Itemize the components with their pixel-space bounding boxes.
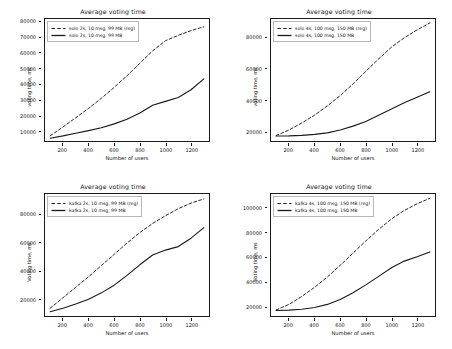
y-tick-label: 80000 <box>20 211 36 217</box>
x-tick-mark <box>314 143 315 146</box>
x-tick-label: 200 <box>283 147 293 153</box>
series-line <box>276 92 430 136</box>
x-tick-mark <box>392 318 393 321</box>
series-line <box>276 252 430 311</box>
legend-item[interactable]: solo 2s, 10 msg, 99 MB (reg) <box>51 25 135 32</box>
y-tick-label: 80000 <box>246 34 262 40</box>
y-axis-ticks: 20000400006000080000100000 <box>226 193 267 317</box>
y-tick-label: 80000 <box>246 230 262 236</box>
chart-title: Average voting time <box>226 8 452 16</box>
x-tick-mark <box>88 143 89 146</box>
y-tick-mark <box>39 68 42 69</box>
legend-item[interactable]: solo 4s, 100 msg, 150 MB (reg) <box>277 25 367 32</box>
legend-label: kafka 4s, 100 msg, 150 MB (reg) <box>295 200 370 207</box>
x-tick-label: 400 <box>83 147 93 153</box>
chart-legend[interactable]: kafka 2s, 10 msg, 99 MB (reg)kafka 2s, 1… <box>47 196 142 217</box>
x-tick-label: 1200 <box>411 147 424 153</box>
y-tick-mark <box>39 131 42 132</box>
legend-label: kafka 2s, 10 msg, 99 MB <box>69 207 126 214</box>
x-axis-label: Number of users <box>270 155 436 161</box>
y-tick-mark <box>265 282 268 283</box>
y-tick-mark <box>265 232 268 233</box>
x-tick-label: 600 <box>109 322 119 328</box>
chart-legend[interactable]: kafka 4s, 100 msg, 150 MB (reg)kafka 4s,… <box>273 196 374 217</box>
plot-area: kafka 4s, 100 msg, 150 MB (reg)kafka 4s,… <box>270 193 436 317</box>
y-tick-label: 60000 <box>246 254 262 260</box>
y-tick-mark <box>39 271 42 272</box>
chart-title: Average voting time <box>0 183 226 191</box>
x-tick-label: 400 <box>309 147 319 153</box>
chart-panel-bottom-right: Average voting time Voting time, ms 2000… <box>226 175 452 349</box>
x-tick-label: 400 <box>309 322 319 328</box>
legend-label: solo 2s, 10 msg, 99 MB (reg) <box>69 25 135 32</box>
x-tick-label: 1000 <box>160 147 173 153</box>
x-tick-mark <box>140 318 141 321</box>
x-axis-ticks: 20040060080010001200 <box>270 318 436 328</box>
legend-item[interactable]: kafka 4s, 100 msg, 150 MB (reg) <box>277 200 370 207</box>
x-tick-label: 1000 <box>386 322 399 328</box>
dashed-line-swatch-icon <box>51 201 66 206</box>
x-tick-mark <box>62 318 63 321</box>
x-tick-mark <box>366 143 367 146</box>
y-tick-label: 50000 <box>20 66 36 72</box>
dashed-line-swatch-icon <box>277 201 292 206</box>
figure-canvas: Average voting time voting time, ms 1000… <box>0 0 452 349</box>
legend-item[interactable]: solo 4s, 100 msg, 150 MB <box>277 32 367 39</box>
x-tick-label: 200 <box>57 322 67 328</box>
plot-area: solo 2s, 10 msg, 99 MB (reg)solo 2s, 10 … <box>44 18 210 142</box>
y-tick-mark <box>39 299 42 300</box>
x-tick-label: 600 <box>335 322 345 328</box>
y-tick-mark <box>265 132 268 133</box>
y-tick-label: 100000 <box>243 205 262 211</box>
chart-panel-top-left: Average voting time voting time, ms 1000… <box>0 0 226 174</box>
x-tick-label: 200 <box>283 322 293 328</box>
x-tick-label: 400 <box>83 322 93 328</box>
y-tick-mark <box>39 100 42 101</box>
x-tick-label: 1000 <box>160 322 173 328</box>
x-tick-label: 1000 <box>386 147 399 153</box>
x-tick-label: 800 <box>135 322 145 328</box>
x-tick-label: 600 <box>335 147 345 153</box>
x-tick-mark <box>314 318 315 321</box>
legend-item[interactable]: kafka 2s, 10 msg, 99 MB <box>51 207 138 214</box>
legend-item[interactable]: kafka 2s, 10 msg, 99 MB (reg) <box>51 200 138 207</box>
legend-label: solo 4s, 100 msg, 150 MB <box>295 32 354 39</box>
x-tick-mark <box>166 318 167 321</box>
dashed-line-swatch-icon <box>277 26 292 31</box>
chart-panel-bottom-left: Average voting time Voting time, ms 2000… <box>0 175 226 349</box>
y-tick-label: 60000 <box>20 240 36 246</box>
x-tick-label: 800 <box>135 147 145 153</box>
chart-legend[interactable]: solo 2s, 10 msg, 99 MB (reg)solo 2s, 10 … <box>47 21 139 42</box>
x-tick-mark <box>166 143 167 146</box>
series-line <box>50 228 204 312</box>
x-axis-ticks: 20040060080010001200 <box>44 318 210 328</box>
x-axis-ticks: 20040060080010001200 <box>270 143 436 153</box>
y-tick-mark <box>39 52 42 53</box>
legend-item[interactable]: kafka 4s, 100 msg, 150 MB <box>277 207 370 214</box>
y-tick-mark <box>265 37 268 38</box>
y-tick-mark <box>39 116 42 117</box>
x-tick-label: 1200 <box>185 147 198 153</box>
x-tick-label: 600 <box>109 147 119 153</box>
legend-label: solo 2s, 10 msg, 99 MB <box>69 32 122 39</box>
y-tick-label: 40000 <box>20 81 36 87</box>
x-axis-label: Number of users <box>44 330 210 336</box>
chart-legend[interactable]: solo 4s, 100 msg, 150 MB (reg)solo 4s, 1… <box>273 21 371 42</box>
x-tick-label: 800 <box>361 322 371 328</box>
plot-area: solo 4s, 100 msg, 150 MB (reg)solo 4s, 1… <box>270 18 436 142</box>
solid-line-swatch-icon <box>51 33 66 38</box>
y-tick-mark <box>265 68 268 69</box>
x-tick-mark <box>417 318 418 321</box>
y-tick-label: 10000 <box>20 129 36 135</box>
solid-line-swatch-icon <box>277 33 292 38</box>
x-tick-label: 800 <box>361 147 371 153</box>
y-tick-mark <box>265 257 268 258</box>
x-tick-mark <box>88 318 89 321</box>
legend-item[interactable]: solo 2s, 10 msg, 99 MB <box>51 32 135 39</box>
solid-line-swatch-icon <box>51 208 66 213</box>
x-tick-mark <box>288 143 289 146</box>
x-tick-mark <box>191 318 192 321</box>
y-tick-label: 60000 <box>20 50 36 56</box>
x-tick-mark <box>191 143 192 146</box>
y-tick-label: 70000 <box>20 34 36 40</box>
